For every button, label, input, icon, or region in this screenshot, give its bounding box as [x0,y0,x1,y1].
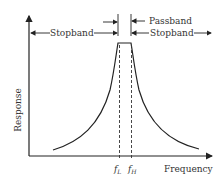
response-curve [53,43,199,150]
stopband-right-label: Stopband [150,28,194,38]
fl-tick-label: fL [113,164,121,175]
diagram-svg: Passband Stopband Stopband Response Freq… [0,0,218,182]
filter-response-diagram: Passband Stopband Stopband Response Freq… [0,0,218,182]
stopband-left-label: Stopband [50,28,94,38]
y-axis-label: Response [13,88,23,132]
x-axis-label: Frequency [164,164,214,174]
fh-tick-label: fH [127,164,137,175]
passband-label: Passband [149,16,192,26]
